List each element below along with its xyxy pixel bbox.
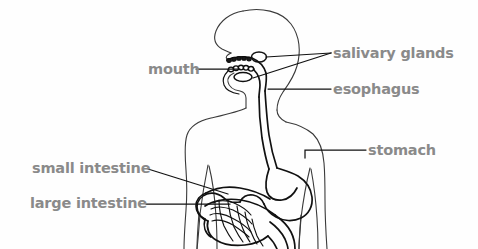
label-small-intestine: small intestine: [32, 161, 150, 176]
neck-back-outline: [277, 110, 286, 122]
salivary-gland-upper: [252, 52, 267, 62]
body-outline-group: [184, 10, 327, 249]
digestive-system-diagram: salivary glands esophagus stomach mouth …: [0, 0, 478, 249]
upper-teeth-row: [227, 57, 251, 63]
esophagus-left-wall: [259, 97, 269, 169]
label-salivary-glands: salivary glands: [333, 46, 454, 61]
head-forehead-outline: [215, 11, 243, 53]
label-large-intestine: large intestine: [30, 196, 147, 211]
anatomy-illustration: [0, 0, 478, 249]
descending-colon-inner: [270, 222, 288, 249]
small-intestine-group: [197, 193, 268, 246]
label-esophagus: esophagus: [333, 82, 419, 97]
esophagus-group: [259, 91, 277, 169]
salivary-gland-lower: [234, 73, 252, 82]
small-intestine-coils: [210, 200, 263, 246]
esophagus-right-wall: [265, 91, 277, 168]
leader-stomach: [305, 150, 366, 158]
right-arm-inner-line: [311, 169, 318, 249]
label-stomach: stomach: [368, 143, 436, 158]
left-arm-outline: [197, 165, 208, 249]
pharynx-front-wall: [254, 70, 260, 97]
leader-small-intestine: [148, 169, 228, 194]
label-mouth: mouth: [148, 62, 200, 77]
torso-crease-right: [299, 215, 301, 249]
sigmoid-colon: [268, 236, 277, 249]
mouth-region-group: [223, 52, 266, 97]
